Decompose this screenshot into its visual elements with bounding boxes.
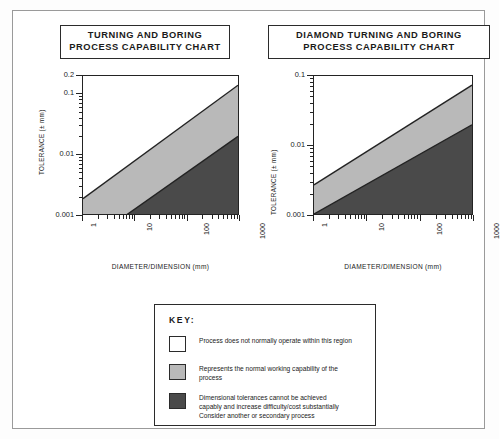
x-minor-tick — [408, 215, 409, 219]
x-minor-tick — [234, 215, 235, 219]
x-minor-tick — [175, 215, 176, 219]
x-axis-caption-right: DIAMETER/DIMENSION (mm) — [313, 263, 473, 270]
key-label-grey: Represents the normal working capability… — [199, 364, 338, 382]
x-minor-tick — [107, 215, 108, 219]
chart-title-line-1: TURNING AND BORING — [69, 30, 221, 42]
x-minor-tick — [445, 215, 446, 219]
x-minor-tick — [179, 215, 180, 219]
x-minor-tick — [468, 215, 469, 219]
y-minor-tick — [310, 96, 314, 97]
x-tick-label: 1000 — [492, 223, 501, 239]
y-minor-tick — [79, 103, 83, 104]
x-minor-tick — [461, 215, 462, 219]
y-major-tick — [76, 154, 82, 155]
y-minor-tick — [79, 96, 83, 97]
y-minor-tick — [310, 78, 314, 79]
x-minor-tick — [364, 215, 365, 219]
y-major-tick — [307, 145, 313, 146]
y-minor-tick — [310, 148, 314, 149]
x-minor-tick — [414, 215, 415, 219]
key-swatch-grey — [169, 364, 186, 380]
y-tick-label: 0.01 — [271, 140, 305, 149]
x-minor-tick — [184, 215, 185, 219]
y-major-tick — [76, 75, 82, 76]
x-major-tick — [82, 215, 83, 221]
x-minor-tick — [398, 215, 399, 219]
y-minor-tick — [79, 157, 83, 158]
y-minor-tick — [310, 103, 314, 104]
plot-area-left — [82, 75, 239, 215]
y-tick-label: 0.01 — [40, 149, 74, 158]
plot-area-right — [313, 75, 473, 215]
key-swatch-dark — [169, 393, 186, 409]
x-minor-tick — [471, 215, 472, 219]
x-major-tick — [239, 215, 240, 221]
x-minor-tick — [227, 215, 228, 219]
chart-title-line-1: DIAMOND TURNING AND BORING — [277, 30, 481, 42]
x-major-tick — [187, 215, 188, 221]
y-minor-tick — [310, 161, 314, 162]
y-minor-tick — [310, 91, 314, 92]
x-minor-tick — [150, 215, 151, 219]
x-minor-tick — [404, 215, 405, 219]
chart-title-box-right: DIAMOND TURNING AND BORING PROCESS CAPAB… — [268, 25, 490, 59]
x-minor-tick — [452, 215, 453, 219]
y-minor-tick — [79, 186, 83, 187]
y-minor-tick — [310, 124, 314, 125]
y-tick-label: 0.001 — [271, 210, 305, 219]
x-major-tick — [473, 215, 474, 221]
key-box: KEY: Process does not normally operate w… — [154, 304, 376, 426]
x-tick-label: 100 — [202, 223, 211, 235]
key-label-white: Process does not normally operate within… — [199, 336, 352, 345]
x-minor-tick — [465, 215, 466, 219]
x-minor-tick — [457, 215, 458, 219]
x-minor-tick — [123, 215, 124, 219]
y-minor-tick — [310, 166, 314, 167]
y-tick-label: 0.001 — [40, 210, 74, 219]
x-minor-tick — [358, 215, 359, 219]
x-minor-tick — [350, 215, 351, 219]
y-minor-tick — [79, 197, 83, 198]
x-major-tick — [313, 215, 314, 221]
y-minor-tick — [310, 82, 314, 83]
y-minor-tick — [79, 160, 83, 161]
x-minor-tick — [182, 215, 183, 219]
x-minor-tick — [345, 215, 346, 219]
x-minor-tick — [218, 215, 219, 219]
x-minor-tick — [129, 215, 130, 219]
x-minor-tick — [202, 215, 203, 219]
y-minor-tick — [79, 99, 83, 100]
x-minor-tick — [237, 215, 238, 219]
x-tick-label: 1 — [320, 223, 329, 227]
x-major-tick — [366, 215, 367, 221]
x-major-tick — [134, 215, 135, 221]
x-minor-tick — [159, 215, 160, 219]
key-title: KEY: — [169, 315, 195, 325]
y-major-tick — [307, 75, 313, 76]
plot-svg-left — [83, 76, 238, 214]
y-major-tick — [76, 93, 82, 94]
x-minor-tick — [126, 215, 127, 219]
x-minor-tick — [355, 215, 356, 219]
chart-title-box-left: TURNING AND BORING PROCESS CAPABILITY CH… — [60, 25, 230, 59]
x-minor-tick — [338, 215, 339, 219]
y-minor-tick — [310, 194, 314, 195]
y-minor-tick — [310, 86, 314, 87]
key-swatch-white — [169, 336, 186, 352]
x-tick-label: 10 — [377, 223, 386, 231]
y-tick-label: 0.1 — [40, 88, 74, 97]
x-minor-tick — [392, 215, 393, 219]
x-minor-tick — [436, 215, 437, 219]
x-minor-tick — [212, 215, 213, 219]
y-minor-tick — [310, 182, 314, 183]
y-minor-tick — [79, 178, 83, 179]
chart-panel-turning-boring: TURNING AND BORING PROCESS CAPABILITY CH… — [29, 25, 261, 287]
x-minor-tick — [382, 215, 383, 219]
x-minor-tick — [361, 215, 362, 219]
document-frame: TURNING AND BORING PROCESS CAPABILITY CH… — [12, 10, 485, 429]
x-tick-label: 100 — [435, 223, 444, 235]
x-minor-tick — [223, 215, 224, 219]
key-entry-grey: Represents the normal working capability… — [169, 364, 338, 382]
y-minor-tick — [310, 173, 314, 174]
